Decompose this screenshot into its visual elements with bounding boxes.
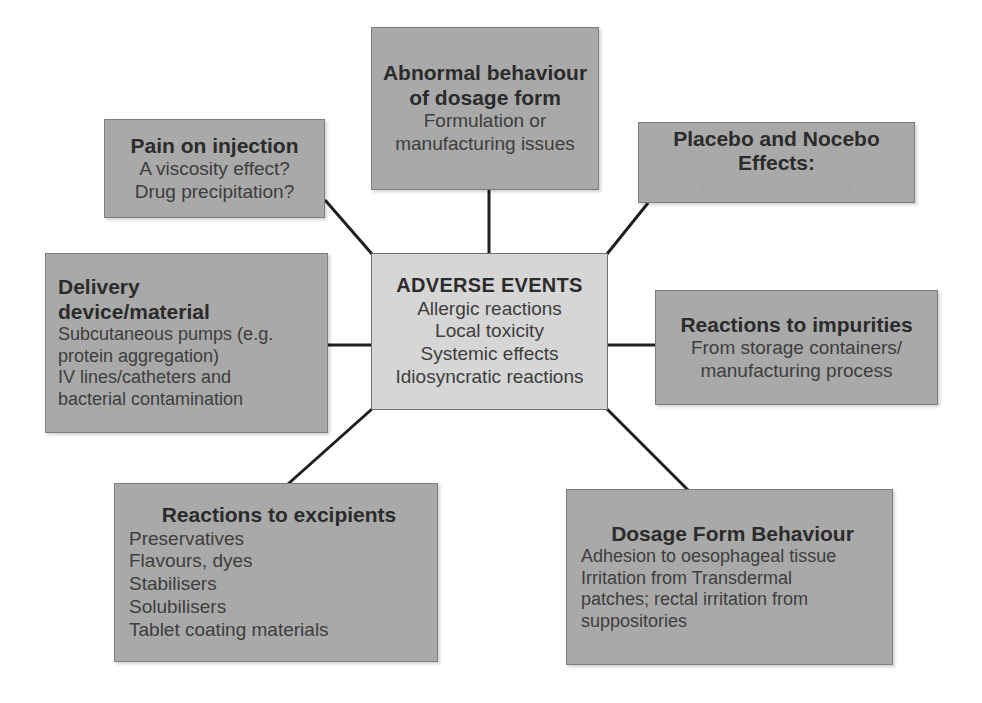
node-pain-on-injection[interactable]: Pain on injection A viscosity effect? Dr… — [104, 119, 325, 218]
node-placebo-nocebo-effects[interactable]: Placebo and Nocebo Effects: illegible fa… — [638, 122, 915, 203]
node-dosage-form-behaviour[interactable]: Dosage Form Behaviour Adhesion to oesoph… — [566, 489, 893, 665]
node-excipients-line-5: Tablet coating materials — [129, 619, 429, 642]
node-delivery-line-3: IV lines/catheters and — [58, 367, 319, 389]
node-placebo-title-line-1: Placebo and Nocebo — [647, 127, 906, 151]
center-line-3: Systemic effects — [380, 343, 599, 366]
node-abnormal-title-line-1: Abnormal behaviour — [380, 61, 590, 85]
diagram-canvas: Abnormal behaviour of dosage form Formul… — [0, 0, 982, 703]
connector-placebo-to-center — [607, 203, 648, 254]
node-dosage-line-2: Irritation from Transdermal — [581, 568, 884, 590]
node-excipients-line-3: Stabilisers — [129, 573, 429, 596]
node-abnormal-line-1: Formulation or — [380, 110, 590, 133]
node-abnormal-line-2: manufacturing issues — [380, 133, 590, 156]
connector-pain-to-center — [325, 200, 372, 254]
node-pain-line-1: A viscosity effect? — [113, 158, 316, 181]
node-pain-title: Pain on injection — [113, 134, 316, 158]
node-dosage-line-3: patches; rectal irritation from — [581, 589, 884, 611]
center-line-2: Local toxicity — [380, 320, 599, 343]
node-excipients-title: Reactions to excipients — [129, 503, 429, 527]
node-placebo-faded-line: illegible faded text — [647, 175, 906, 198]
node-delivery-line-2: protein aggregation) — [58, 346, 319, 368]
node-delivery-line-4: bacterial contamination — [58, 389, 319, 411]
node-reactions-to-impurities[interactable]: Reactions to impurities From storage con… — [655, 290, 938, 405]
node-reactions-to-excipients[interactable]: Reactions to excipients Preservatives Fl… — [114, 483, 438, 662]
node-abnormal-behaviour[interactable]: Abnormal behaviour of dosage form Formul… — [371, 27, 599, 190]
node-dosage-title: Dosage Form Behaviour — [581, 522, 884, 546]
node-delivery-device-material[interactable]: Delivery device/material Subcutaneous pu… — [45, 253, 328, 433]
center-line-4: Idiosyncratic reactions — [380, 366, 599, 389]
node-excipients-line-4: Solubilisers — [129, 596, 429, 619]
node-impurities-title: Reactions to impurities — [664, 313, 929, 337]
center-line-1: Allergic reactions — [380, 298, 599, 321]
node-dosage-line-4: suppositories — [581, 611, 884, 633]
node-pain-line-2: Drug precipitation? — [113, 181, 316, 204]
node-excipients-line-2: Flavours, dyes — [129, 550, 429, 573]
node-placebo-title-line-2: Effects: — [647, 151, 906, 175]
node-delivery-title-line-2: device/material — [58, 300, 319, 324]
node-abnormal-title-line-2: of dosage form — [380, 86, 590, 110]
node-delivery-line-1: Subcutaneous pumps (e.g. — [58, 324, 319, 346]
node-delivery-title-line-1: Delivery — [58, 275, 319, 299]
node-impurities-line-1: From storage containers/ — [664, 337, 929, 360]
center-title: ADVERSE EVENTS — [380, 274, 599, 297]
node-dosage-line-1: Adhesion to oesophageal tissue — [581, 546, 884, 568]
node-excipients-line-1: Preservatives — [129, 528, 429, 551]
node-impurities-line-2: manufacturing process — [664, 360, 929, 383]
node-adverse-events-center[interactable]: ADVERSE EVENTS Allergic reactions Local … — [371, 253, 608, 410]
connector-center-to-dosage — [607, 409, 688, 490]
